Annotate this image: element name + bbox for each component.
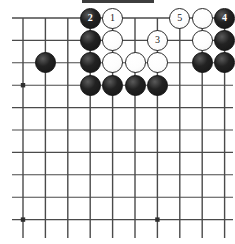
- stone-black: [80, 75, 101, 96]
- numbered-stone-black-2: 2: [80, 8, 101, 29]
- numbered-stone-white-1: 1: [102, 8, 123, 29]
- stone-move-number: 5: [177, 13, 182, 23]
- numbered-stone-white-5: 5: [169, 8, 190, 29]
- stone-black: [80, 52, 101, 73]
- stone-black: [214, 30, 235, 51]
- stone-white: [102, 30, 123, 51]
- stone-black: [80, 30, 101, 51]
- stone-white: [125, 52, 146, 73]
- diagram-caption: [0, 231, 235, 244]
- stone-black: [102, 75, 123, 96]
- stone-black: [147, 75, 168, 96]
- go-board-diagram: 21543: [0, 0, 235, 244]
- numbered-stone-black-4: 4: [214, 8, 235, 29]
- stone-black: [192, 52, 213, 73]
- stone-move-number: 3: [155, 35, 160, 45]
- stone-white: [192, 8, 213, 29]
- stone-white: [192, 30, 213, 51]
- stone-black: [125, 75, 146, 96]
- stone-move-number: 2: [88, 13, 93, 23]
- numbered-stone-white-3: 3: [147, 30, 168, 51]
- stone-move-number: 1: [110, 13, 115, 23]
- stone-move-number: 4: [222, 13, 227, 23]
